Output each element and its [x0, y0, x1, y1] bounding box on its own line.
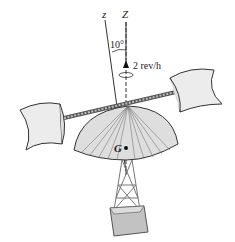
- G-label: G: [114, 142, 122, 154]
- diagram-canvas: z Z 10° 2 rev/h G: [0, 0, 235, 242]
- z-axis-label: z: [101, 8, 107, 20]
- Z-axis-label: Z: [122, 8, 129, 20]
- lattice-tower: [114, 160, 140, 210]
- angle-label: 10°: [110, 39, 124, 50]
- base-block: [110, 206, 148, 236]
- center-of-mass-point: [124, 146, 128, 150]
- rate-label: 2 rev/h: [133, 60, 161, 71]
- right-cup: [170, 69, 222, 112]
- left-cup: [20, 103, 65, 150]
- rate-arrow-icon: [123, 60, 129, 68]
